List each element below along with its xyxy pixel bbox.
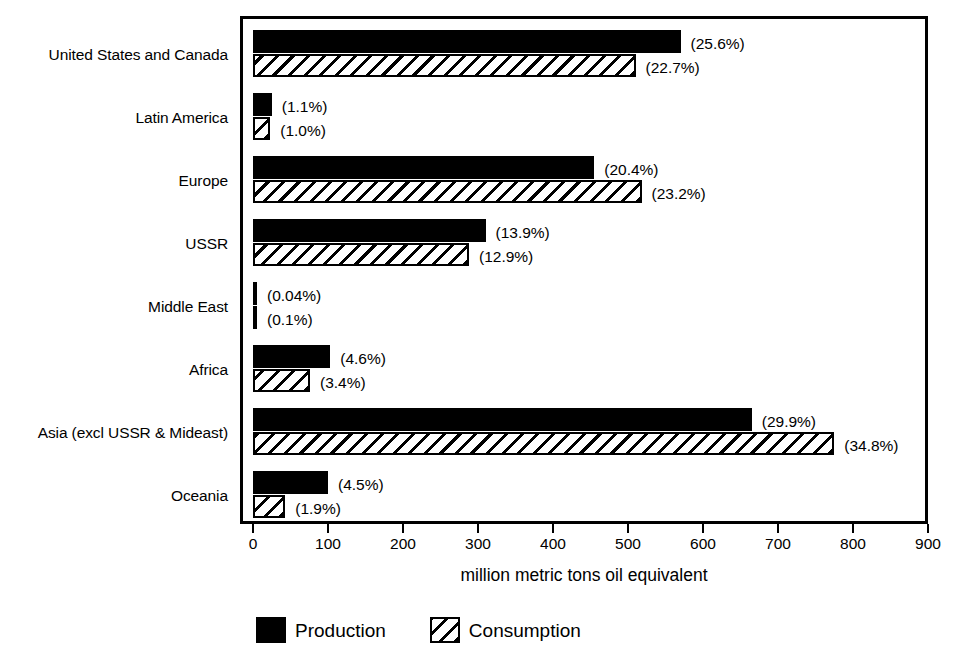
x-axis-tick <box>327 524 329 533</box>
legend-label-production: Production <box>295 621 386 640</box>
bar-group: (4.5%)(1.9%) <box>253 471 928 518</box>
production-value-label: (25.6%) <box>691 36 745 52</box>
x-axis-tick <box>852 524 854 533</box>
production-value-label: (20.4%) <box>604 162 658 178</box>
bar-group: (29.9%)(34.8%) <box>253 408 928 455</box>
production-bar <box>253 282 257 305</box>
consumption-bar <box>253 243 469 266</box>
production-bar <box>253 156 594 179</box>
production-bar <box>253 408 752 431</box>
category-label: Europe <box>0 173 228 189</box>
x-axis-tick-label: 500 <box>615 536 641 552</box>
production-value-label: (1.1%) <box>282 99 328 115</box>
production-bar <box>253 345 330 368</box>
consumption-value-label: (22.7%) <box>646 60 700 76</box>
consumption-bar <box>253 54 636 77</box>
category-label: Latin America <box>0 110 228 126</box>
hatched-swatch-icon <box>430 617 460 643</box>
x-axis-tick <box>477 524 479 533</box>
production-value-label: (4.6%) <box>340 351 386 367</box>
chart-legend: Production Consumption <box>240 612 800 648</box>
bar-group: (0.04%)(0.1%) <box>253 282 928 329</box>
x-axis-tick-label: 600 <box>690 536 716 552</box>
production-bar <box>253 219 486 242</box>
consumption-value-label: (3.4%) <box>320 375 366 391</box>
x-axis-tick <box>702 524 704 533</box>
x-axis-tick <box>252 524 254 533</box>
bar-chart: United States and CanadaLatin AmericaEur… <box>0 0 958 659</box>
x-axis-tick <box>777 524 779 533</box>
x-axis-ticks: 0100200300400500600700800900 <box>253 524 928 534</box>
consumption-bar <box>253 495 285 518</box>
x-axis-tick-label: 800 <box>840 536 866 552</box>
bar-group: (20.4%)(23.2%) <box>253 156 928 203</box>
consumption-value-label: (1.9%) <box>295 501 341 517</box>
production-value-label: (0.04%) <box>267 288 321 304</box>
production-bar <box>253 30 681 53</box>
legend-item-production: Production <box>256 617 386 643</box>
category-label: Africa <box>0 362 228 378</box>
consumption-value-label: (34.8%) <box>844 438 898 454</box>
x-axis-tick <box>402 524 404 533</box>
x-axis-tick <box>927 524 929 533</box>
consumption-bar <box>253 432 834 455</box>
production-value-label: (29.9%) <box>762 414 816 430</box>
x-axis-tick-label: 0 <box>249 536 258 552</box>
consumption-bar <box>253 117 270 140</box>
production-value-label: (13.9%) <box>496 225 550 241</box>
x-axis-tick-label: 100 <box>315 536 341 552</box>
consumption-bar <box>253 306 257 329</box>
x-axis-tick-label: 200 <box>390 536 416 552</box>
production-value-label: (4.5%) <box>338 477 384 493</box>
x-axis-tick-label: 900 <box>915 536 941 552</box>
bar-group: (1.1%)(1.0%) <box>253 93 928 140</box>
category-label: Middle East <box>0 299 228 315</box>
consumption-value-label: (1.0%) <box>280 123 326 139</box>
category-axis-labels: United States and CanadaLatin AmericaEur… <box>0 16 236 520</box>
solid-black-swatch-icon <box>256 617 286 643</box>
consumption-value-label: (23.2%) <box>652 186 706 202</box>
production-bar <box>253 93 272 116</box>
bar-group: (13.9%)(12.9%) <box>253 219 928 266</box>
plot-area: (25.6%)(22.7%)(1.1%)(1.0%)(20.4%)(23.2%)… <box>253 16 928 521</box>
x-axis-tick-label: 700 <box>765 536 791 552</box>
x-axis-title: million metric tons oil equivalent <box>240 567 928 585</box>
x-axis-tick <box>552 524 554 533</box>
category-label: USSR <box>0 236 228 252</box>
category-label: United States and Canada <box>0 47 228 63</box>
legend-item-consumption: Consumption <box>430 617 581 643</box>
x-axis-tick-label: 300 <box>465 536 491 552</box>
bar-group: (25.6%)(22.7%) <box>253 30 928 77</box>
legend-label-consumption: Consumption <box>469 621 581 640</box>
x-axis-tick-label: 400 <box>540 536 566 552</box>
category-label: Oceania <box>0 488 228 504</box>
category-label: Asia (excl USSR & Mideast) <box>0 425 228 441</box>
production-bar <box>253 471 328 494</box>
bar-group: (4.6%)(3.4%) <box>253 345 928 392</box>
x-axis-tick <box>627 524 629 533</box>
consumption-bar <box>253 180 642 203</box>
consumption-bar <box>253 369 310 392</box>
consumption-value-label: (12.9%) <box>479 249 533 265</box>
consumption-value-label: (0.1%) <box>267 312 313 328</box>
